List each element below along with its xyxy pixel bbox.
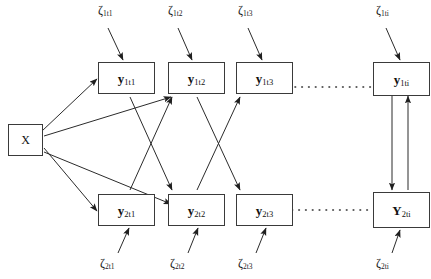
edge-x-to-y1t1	[42, 79, 97, 131]
node-y1t3[interactable]: y1t3	[236, 62, 293, 94]
disturbance-z1t3: ζ1t3	[238, 4, 253, 16]
edge-z2t2-to-y2t2	[188, 228, 198, 253]
node-x-label: X	[21, 134, 30, 146]
diagram-edges-layer	[0, 0, 431, 279]
edge-z2ti-to-Y2ti	[392, 230, 400, 253]
disturbance-z2t1: ζ2t1	[100, 257, 115, 269]
node-y2t1[interactable]: y2t1	[98, 194, 155, 226]
edge-z2t3-to-y2t3	[256, 228, 266, 253]
edge-z2t1-to-y2t1	[118, 228, 129, 253]
disturbance-z1t2: ζ1t2	[168, 4, 183, 16]
edge-z1ti-to-y1ti	[386, 28, 400, 60]
edge-x-to-y2t1	[44, 148, 97, 211]
node-Y2ti[interactable]: Y2ti	[373, 192, 430, 228]
disturbance-z1ti: ζ1ti	[376, 4, 389, 16]
node-y1t2-label: y1t2	[188, 72, 205, 85]
edge-z1t2-to-y1t2	[178, 28, 192, 60]
edge-x-to-y1t2	[44, 97, 171, 136]
node-y1t3-label: y1t3	[256, 72, 273, 85]
node-y2t2-label: y2t2	[188, 204, 205, 217]
node-y2t2[interactable]: y2t2	[168, 194, 225, 226]
edge-z1t3-to-y1t3	[248, 28, 262, 60]
node-y1t1[interactable]: y1t1	[98, 62, 155, 94]
node-y2t1-label: y2t1	[118, 204, 135, 217]
disturbance-z2ti: ζ2ti	[376, 257, 389, 269]
disturbance-z1t1: ζ1t1	[98, 4, 113, 16]
node-Y2ti-label: Y2ti	[392, 204, 410, 217]
path-diagram-canvas: X y1t1 y1t2 y1t3 y1ti y2t1 y2t2 y2t3 Y2t…	[0, 0, 431, 279]
node-y2t3[interactable]: y2t3	[236, 194, 293, 226]
edge-z1t1-to-y1t1	[108, 28, 123, 60]
node-y2t3-label: y2t3	[256, 204, 273, 217]
node-x[interactable]: X	[8, 124, 43, 156]
node-y1ti-label: y1ti	[394, 73, 409, 86]
node-y1ti[interactable]: y1ti	[373, 62, 430, 96]
disturbance-z2t3: ζ2t3	[238, 257, 253, 269]
disturbance-z2t2: ζ2t2	[170, 257, 185, 269]
node-y1t1-label: y1t1	[118, 72, 135, 85]
node-y1t2[interactable]: y1t2	[168, 62, 225, 94]
